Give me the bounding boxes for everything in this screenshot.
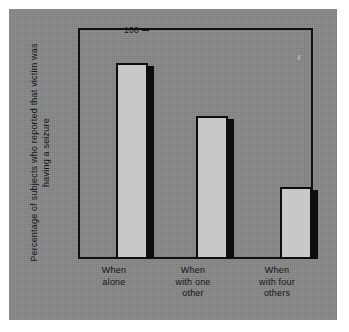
bar-when-with-four-others[interactable] [280, 187, 312, 259]
y-tick-label-100: 100 [124, 25, 139, 35]
x-category-label-when-alone: When alone [84, 265, 144, 288]
figure-container: Percentage of subjects who reported that… [0, 0, 349, 332]
plot-area: 100 80 60 40 20 [78, 28, 313, 259]
x-category-label-when-with-four-others: When with four others [245, 265, 309, 300]
x-category-label-when-with-one-other: When with one other [161, 265, 225, 300]
y-tick-100: 100 [142, 29, 149, 31]
y-axis-title: Percentage of subjects who reported that… [23, 37, 57, 268]
chart-panel: Percentage of subjects who reported that… [9, 9, 337, 320]
bar-when-with-one-other[interactable] [196, 116, 228, 259]
bar-when-alone[interactable] [116, 63, 148, 259]
